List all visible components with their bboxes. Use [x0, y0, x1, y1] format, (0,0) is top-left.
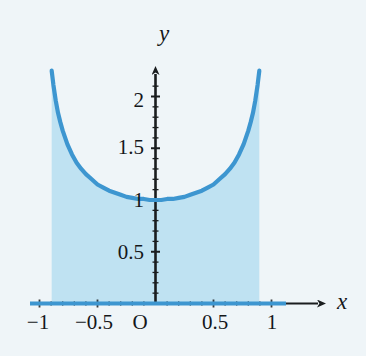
- x-axis-label: x: [337, 290, 347, 313]
- y-tick-label-0-5: 0.5: [92, 242, 144, 263]
- y-tick-label-1-5: 1.5: [92, 137, 144, 158]
- y-tick-label-2: 2: [100, 90, 144, 111]
- x-tick-label-0-5: 0.5: [182, 312, 248, 333]
- x-tick-label-minus-1: −1: [14, 312, 62, 333]
- y-tick-label-1: 1: [100, 190, 144, 211]
- x-tick-label-1: 1: [250, 312, 294, 333]
- x-tick-label-minus-0-5: −0.5: [56, 312, 132, 333]
- y-axis-label: y: [159, 22, 169, 45]
- plot-area: [0, 0, 366, 356]
- chart-figure: y x 2 1.5 1 0.5 −1 −0.5 O 0.5 1: [0, 0, 366, 356]
- origin-label: O: [126, 312, 154, 333]
